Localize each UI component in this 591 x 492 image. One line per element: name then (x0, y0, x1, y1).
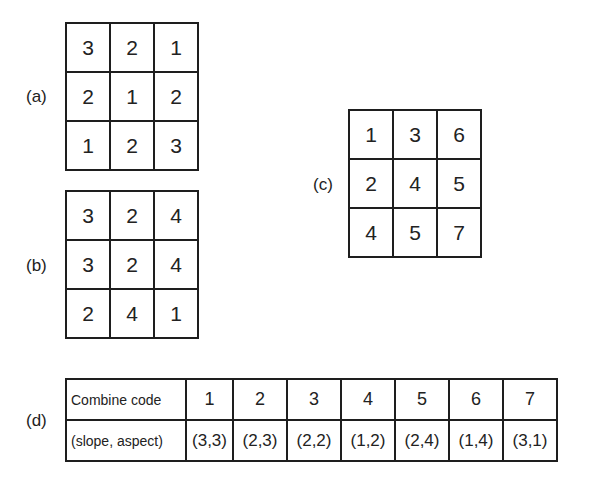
panel-b-grid: 3 2 4 3 2 4 2 4 1 (65, 190, 199, 339)
grid-row: 3 2 4 (66, 240, 198, 289)
grid-cell: 3 (154, 121, 198, 170)
grid-cell: 5 (437, 159, 481, 208)
grid-cell: 4 (154, 191, 198, 240)
code-cell: 7 (503, 379, 557, 420)
grid-row: 4 5 7 (349, 208, 481, 257)
row-header-slope-aspect: (slope, aspect) (66, 420, 186, 461)
grid-cell: 6 (437, 110, 481, 159)
grid-cell: 2 (154, 72, 198, 121)
grid-cell: 2 (66, 289, 110, 338)
code-cell: 6 (449, 379, 503, 420)
grid-row: 3 2 4 (66, 191, 198, 240)
slope-aspect-row: (slope, aspect) (3,3) (2,3) (2,2) (1,2) … (66, 420, 557, 461)
grid-cell: 5 (393, 208, 437, 257)
pair-cell: (1,2) (341, 420, 395, 461)
grid-cell: 2 (110, 121, 154, 170)
panel-a-grid: 3 2 1 2 1 2 1 2 3 (65, 22, 199, 171)
pair-cell: (2,2) (287, 420, 341, 461)
grid-cell: 2 (110, 191, 154, 240)
grid-row: 1 3 6 (349, 110, 481, 159)
code-cell: 1 (186, 379, 233, 420)
panel-c-label: (c) (313, 176, 333, 193)
grid-cell: 1 (154, 23, 198, 72)
pair-cell: (2,3) (233, 420, 287, 461)
pair-cell: (2,4) (395, 420, 449, 461)
combine-code-table: Combine code 1 2 3 4 5 6 7 (slope, aspec… (65, 378, 558, 462)
grid-row: 3 2 1 (66, 23, 198, 72)
grid-cell: 3 (66, 191, 110, 240)
grid-cell: 7 (437, 208, 481, 257)
panel-b-label: (b) (26, 257, 47, 274)
combine-code-row: Combine code 1 2 3 4 5 6 7 (66, 379, 557, 420)
grid-cell: 1 (154, 289, 198, 338)
code-cell: 3 (287, 379, 341, 420)
row-header-combine-code: Combine code (66, 379, 186, 420)
grid-cell: 4 (154, 240, 198, 289)
code-cell: 2 (233, 379, 287, 420)
panel-c-grid: 1 3 6 2 4 5 4 5 7 (348, 109, 482, 258)
panel-a-label: (a) (26, 88, 47, 105)
grid-cell: 3 (66, 23, 110, 72)
grid-cell: 3 (66, 240, 110, 289)
grid-cell: 3 (393, 110, 437, 159)
panel-d-label: (d) (26, 412, 47, 429)
grid-cell: 2 (110, 240, 154, 289)
grid-cell: 1 (110, 72, 154, 121)
pair-cell: (1,4) (449, 420, 503, 461)
code-cell: 4 (341, 379, 395, 420)
grid-cell: 2 (66, 72, 110, 121)
grid-cell: 4 (349, 208, 393, 257)
grid-row: 2 4 1 (66, 289, 198, 338)
grid-row: 1 2 3 (66, 121, 198, 170)
grid-cell: 4 (393, 159, 437, 208)
grid-cell: 4 (110, 289, 154, 338)
grid-cell: 2 (349, 159, 393, 208)
pair-cell: (3,3) (186, 420, 233, 461)
pair-cell: (3,1) (503, 420, 557, 461)
grid-row: 2 1 2 (66, 72, 198, 121)
grid-cell: 1 (66, 121, 110, 170)
grid-row: 2 4 5 (349, 159, 481, 208)
code-cell: 5 (395, 379, 449, 420)
grid-cell: 1 (349, 110, 393, 159)
grid-cell: 2 (110, 23, 154, 72)
